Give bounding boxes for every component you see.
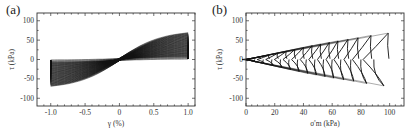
chart-panel-b: 020406080100-100-50050100σ'm (kPa)τ (kPa… bbox=[206, 0, 413, 133]
y-tick-label: -100 bbox=[20, 94, 34, 103]
x-tick-label: 60 bbox=[328, 108, 336, 117]
chart-b-plot: 020406080100-100-50050100σ'm (kPa)τ (kPa… bbox=[206, 0, 413, 133]
x-tick-label: 1.0 bbox=[183, 108, 193, 117]
x-tick-label: 0 bbox=[244, 108, 248, 117]
y-tick-label: 100 bbox=[23, 16, 35, 25]
panel-label-a: (a) bbox=[6, 2, 20, 18]
plot-frame bbox=[246, 13, 404, 106]
x-tick-label: 40 bbox=[300, 108, 308, 117]
x-tick-label: 100 bbox=[384, 108, 396, 117]
y-tick-label: -50 bbox=[24, 74, 34, 83]
x-tick-label: -0.5 bbox=[79, 108, 91, 117]
y-axis-label: τ (kPa) bbox=[215, 48, 224, 70]
chart-a-plot: -1.0-0.500.51.0-100-50050100γ (%)τ (kPa) bbox=[0, 0, 206, 133]
stress-path-loops bbox=[242, 33, 389, 86]
x-tick-label: 20 bbox=[271, 108, 279, 117]
y-tick-label: 0 bbox=[30, 55, 34, 64]
y-tick-label: -100 bbox=[229, 94, 243, 103]
panel-label-b: (b) bbox=[212, 2, 227, 18]
x-axis-label: γ (%) bbox=[107, 119, 125, 128]
y-axis-label: τ (kPa) bbox=[7, 48, 16, 70]
x-tick-label: 80 bbox=[357, 108, 365, 117]
y-tick-label: -50 bbox=[233, 74, 243, 83]
axes: 020406080100-100-50050100σ'm (kPa)τ (kPa… bbox=[215, 13, 404, 128]
chart-panel-a: -1.0-0.500.51.0-100-50050100γ (%)τ (kPa)… bbox=[0, 0, 206, 133]
hysteresis-loops bbox=[51, 33, 188, 86]
x-axis-label: σ'm (kPa) bbox=[310, 119, 340, 128]
y-tick-label: 50 bbox=[27, 36, 35, 45]
x-tick-label: 0 bbox=[118, 108, 122, 117]
x-tick-label: 0.5 bbox=[149, 108, 159, 117]
x-tick-label: -1.0 bbox=[45, 108, 57, 117]
y-tick-label: 100 bbox=[232, 16, 244, 25]
y-tick-label: 50 bbox=[236, 36, 244, 45]
